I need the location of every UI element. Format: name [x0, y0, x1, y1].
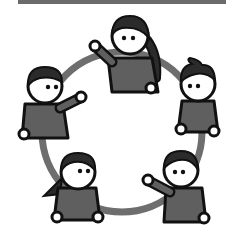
person-right — [176, 58, 219, 136]
person-bottom-left — [44, 153, 103, 222]
person-left — [19, 67, 86, 139]
people-circle-illustration — [0, 0, 246, 242]
